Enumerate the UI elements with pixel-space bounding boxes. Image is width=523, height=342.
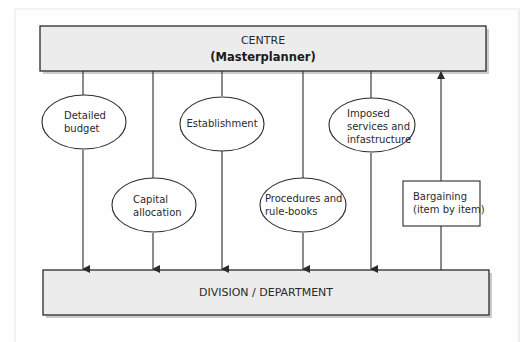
node-procedures-rule-books: Procedures and rule-books: [260, 178, 346, 232]
node-establishment: Establishment: [180, 97, 264, 151]
node-label-line: Procedures and: [265, 193, 342, 204]
node-label-line: rule-books: [265, 206, 318, 217]
node-label-line: infastructure: [347, 134, 411, 145]
node-label-line: Detailed: [64, 110, 106, 121]
node-label-line: Bargaining: [413, 191, 467, 202]
node-label-line: (item by item): [413, 204, 485, 215]
node-label-line: Imposed: [347, 108, 390, 119]
centre-box: CENTRE (Masterplanner): [40, 26, 489, 74]
node-imposed-services: Imposed services and infastructure: [329, 98, 415, 152]
node-label-line: Establishment: [186, 118, 257, 129]
division-box: DIVISION / DEPARTMENT: [43, 270, 492, 318]
node-detailed-budget: Detailed budget: [42, 95, 126, 149]
node-label-line: allocation: [133, 207, 182, 218]
centre-title: CENTRE: [241, 34, 285, 47]
node-label-line: budget: [64, 123, 100, 134]
node-bargaining: Bargaining (item by item): [403, 181, 485, 226]
node-label-line: services and: [347, 121, 410, 132]
diagram-canvas: CENTRE (Masterplanner) DIVISION / DEPART…: [0, 0, 523, 342]
centre-subtitle: (Masterplanner): [210, 50, 315, 64]
node-label-line: Capital: [133, 194, 168, 205]
node-capital-allocation: Capital allocation: [112, 178, 196, 232]
division-title: DIVISION / DEPARTMENT: [199, 286, 333, 299]
